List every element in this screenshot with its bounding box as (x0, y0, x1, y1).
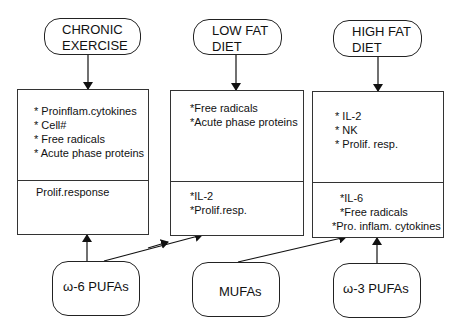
fatty-acid-oval-omega-3: ω-3 PUFAs (333, 263, 421, 318)
increase-item: * Prolif. resp. (335, 137, 398, 151)
box-divider (313, 182, 443, 183)
condition-label-line1: HIGH FAT (352, 24, 411, 40)
increase-item: * NK (335, 123, 398, 137)
decrease-item: *Pro. inflam. cytokines (332, 219, 441, 233)
increase-item: * Cell# (34, 118, 144, 132)
decrease-item: *IL-2 (190, 189, 247, 203)
increase-item: * IL-2 (335, 109, 398, 123)
condition-label-line1: CHRONIC (62, 22, 123, 38)
decrease-item: *Free radicals (332, 205, 441, 219)
arrow-mufa-to-highfat (238, 237, 346, 262)
condition-label-line2: EXERCISE (62, 38, 128, 54)
box-divider (171, 181, 303, 182)
increase-item: * Proinflam.cytokines (34, 104, 144, 118)
decreases-list: *IL-6 *Free radicals *Pro. inflam. cytok… (332, 191, 441, 233)
condition-oval-chronic-exercise: CHRONIC EXERCISE (44, 18, 141, 55)
fatty-acid-label: ω-3 PUFAs (343, 281, 409, 297)
decrease-item: *IL-6 (332, 191, 441, 205)
arrow-edge-into-chronic-right (148, 240, 170, 246)
effects-box-high-fat-diet: * IL-2 * NK * Prolif. resp. *IL-6 *Free … (312, 91, 444, 238)
box-divider (18, 180, 148, 181)
increase-item: * Free radicals (34, 132, 144, 146)
effects-box-low-fat-diet: *Free radicals *Acute phase proteins *IL… (170, 90, 304, 236)
increase-item: * Acute phase proteins (34, 146, 144, 160)
increase-item: *Free radicals (190, 101, 298, 115)
condition-oval-low-fat-diet: LOW FAT DIET (193, 19, 282, 55)
condition-label-line2: DIET (212, 39, 242, 55)
arrow-omega6-to-lowfat (104, 235, 202, 261)
decreases-list: Prolif.response (36, 185, 109, 199)
condition-oval-high-fat-diet: HIGH FAT DIET (333, 20, 422, 57)
increase-item: *Acute phase proteins (190, 115, 298, 129)
effects-box-chronic-exercise: * Proinflam.cytokines * Cell# * Free rad… (17, 89, 149, 235)
increases-list: * IL-2 * NK * Prolif. resp. (335, 109, 398, 151)
arrow-mufa-to-lowfat (148, 242, 168, 248)
decreases-list: *IL-2 *Prolif.resp. (190, 189, 247, 217)
fatty-acid-oval-mufa: MUFAs (192, 262, 280, 317)
decrease-item: Prolif.response (36, 185, 109, 199)
fatty-acid-oval-omega-6: ω-6 PUFAs (52, 261, 140, 316)
decrease-item: *Prolif.resp. (190, 203, 247, 217)
condition-label-line1: LOW FAT (212, 23, 268, 39)
condition-label-line2: DIET (352, 40, 382, 56)
fatty-acid-label: ω-6 PUFAs (63, 279, 129, 295)
fatty-acid-label: MUFAs (219, 284, 262, 300)
increases-list: *Free radicals *Acute phase proteins (190, 101, 298, 129)
increases-list: * Proinflam.cytokines * Cell# * Free rad… (34, 104, 144, 160)
